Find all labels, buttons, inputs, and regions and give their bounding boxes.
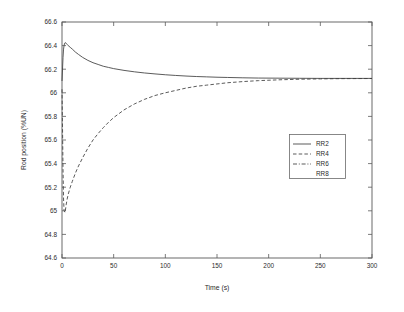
y-tick-label: 65.2: [45, 184, 58, 191]
x-tick-label: 300: [367, 262, 378, 269]
legend: RR2RR4RR6RR8: [290, 135, 346, 179]
y-tick-label: 64.8: [45, 231, 58, 238]
x-tick-label: 50: [110, 262, 118, 269]
y-tick-label: 64.6: [45, 254, 58, 261]
x-tick-label: 200: [263, 262, 274, 269]
legend-label-rr4: RR4: [316, 150, 329, 157]
x-tick-label: 150: [212, 262, 223, 269]
x-tick-label: 0: [60, 262, 64, 269]
x-tick-label: 250: [315, 262, 326, 269]
legend-label-rr8: RR8: [316, 170, 329, 177]
x-tick-label: 100: [160, 262, 171, 269]
legend-label-rr6: RR6: [316, 160, 329, 167]
legend-label-rr2: RR2: [316, 140, 329, 147]
y-tick-label: 66.2: [45, 66, 58, 73]
data-series-group: [62, 43, 372, 213]
y-tick-label: 65.6: [45, 136, 58, 143]
y-tick-label: 65.8: [45, 113, 58, 120]
x-axis-title: Time (s): [205, 284, 230, 292]
y-tick-label: 66.4: [45, 42, 58, 49]
y-tick-label: 65.4: [45, 160, 58, 167]
y-tick-label: 66: [50, 89, 58, 96]
y-tick-label: 65: [50, 207, 58, 214]
series-rr2: [62, 43, 372, 81]
y-tick-label: 66.6: [45, 18, 58, 25]
chart-plot: 050100150200250300 64.664.86565.265.465.…: [0, 0, 404, 312]
y-axis-title: Rod position (%UN): [20, 110, 28, 170]
figure-canvas: 050100150200250300 64.664.86565.265.465.…: [0, 0, 404, 312]
